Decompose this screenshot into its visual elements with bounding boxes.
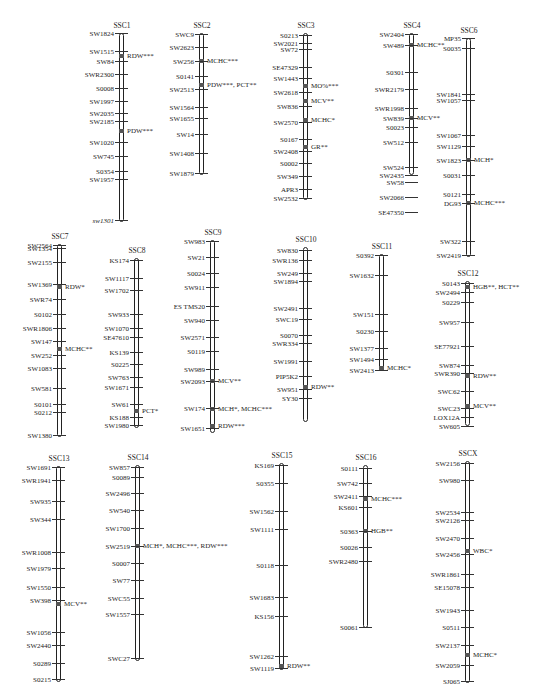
marker-tick — [461, 610, 474, 611]
marker-tick — [131, 510, 144, 511]
marker-label: S0026 — [340, 544, 358, 551]
marker-tick — [461, 520, 474, 521]
marker-tick — [375, 314, 388, 315]
qtl-label: RDW** — [287, 663, 310, 670]
chromosome-bar — [465, 461, 470, 683]
marker-label: SWR2480 — [329, 558, 358, 565]
marker-tick — [195, 173, 208, 174]
marker-tick — [405, 142, 418, 143]
marker-label: SW2137 — [436, 642, 461, 649]
marker-tick — [299, 106, 312, 107]
marker-tick — [53, 404, 66, 405]
marker-tick — [115, 113, 128, 114]
qtl-label: RDW** — [473, 373, 496, 380]
marker-tick — [52, 568, 65, 569]
marker-tick — [359, 468, 372, 469]
chromosome-title: SSC13 — [49, 454, 70, 463]
marker-label: SWC9 — [175, 31, 194, 38]
qtl-label: GR** — [311, 144, 328, 151]
marker-tick — [462, 135, 475, 136]
chromosome-title: SSC8 — [128, 246, 145, 255]
marker-label: SW2185 — [90, 118, 115, 125]
marker-tick — [299, 260, 312, 261]
marker-tick — [299, 308, 312, 309]
qtl-label: HGB** — [371, 528, 393, 535]
marker-tick — [52, 480, 65, 481]
marker-tick — [462, 175, 475, 176]
marker-label: SWR1806 — [23, 325, 52, 332]
marker-label: SW2623 — [170, 44, 195, 51]
marker-label: KS601 — [339, 504, 358, 511]
marker-label: SW322 — [440, 238, 461, 245]
marker-label: SE77921 — [434, 343, 460, 350]
marker-label: SW1408 — [170, 150, 195, 157]
marker-tick — [52, 501, 65, 502]
marker-label: SW1691 — [27, 464, 52, 471]
marker-tick — [299, 92, 312, 93]
marker-label: SW540 — [109, 507, 130, 514]
marker-tick — [52, 645, 65, 646]
marker-label: SWR2300 — [85, 71, 114, 78]
marker-label: SW2513 — [170, 86, 195, 93]
marker-tick — [462, 255, 475, 256]
marker-label: PIP5K2 — [276, 373, 298, 380]
marker-label: SJ065 — [443, 678, 460, 685]
marker-tick — [405, 34, 418, 35]
marker-tick — [130, 337, 143, 338]
marker-tick — [299, 198, 312, 199]
marker-label: SW1369 — [28, 281, 53, 288]
marker-label: SWR390 — [434, 370, 460, 377]
marker-tick — [53, 262, 66, 263]
qtl-region — [119, 54, 124, 58]
marker-label: SWC55 — [108, 595, 130, 602]
marker-tick — [299, 389, 312, 390]
marker-tick — [130, 260, 143, 261]
qtl-label: PDW*** — [127, 128, 153, 135]
marker-label: SW1129 — [437, 143, 461, 150]
chromosome-map: SSC1RDW***PDW***SW1824SW1515SW84SWR2300S… — [0, 0, 534, 699]
marker-label: S0511 — [442, 624, 460, 631]
marker-label: S0215 — [33, 676, 51, 683]
chromosome-bar — [56, 466, 61, 682]
marker-tick — [275, 656, 288, 657]
marker-label: S0089 — [112, 474, 130, 481]
marker-tick — [461, 463, 474, 464]
marker-label: SW1262 — [250, 653, 275, 660]
marker-tick — [461, 554, 474, 555]
marker-label: SW1056 — [27, 629, 52, 636]
marker-label: SW1632 — [350, 272, 375, 279]
marker-tick — [461, 322, 474, 323]
marker-tick — [195, 34, 208, 35]
marker-label: SW2570 — [274, 119, 299, 126]
chromosome-title: SSC6 — [460, 26, 477, 35]
qtl-region — [465, 285, 470, 289]
marker-tick — [299, 67, 312, 68]
marker-label: SW1083 — [28, 365, 53, 372]
marker-label: SW2093 — [181, 378, 206, 385]
marker-label: S0070 — [280, 332, 298, 339]
marker-label: SWR136 — [272, 257, 298, 264]
marker-tick — [299, 281, 312, 282]
marker-label: SW1354 — [28, 245, 53, 252]
marker-tick — [130, 364, 143, 365]
marker-label: SW2408 — [274, 148, 299, 155]
marker-label: KS139 — [110, 349, 129, 356]
marker-tick — [206, 257, 219, 258]
marker-tick — [405, 45, 418, 46]
marker-label: SW980 — [439, 477, 460, 484]
marker-tick — [195, 61, 208, 62]
marker-label: SW77 — [113, 577, 131, 584]
marker-tick — [461, 480, 474, 481]
marker-label: SW252 — [31, 352, 52, 359]
qtl-region — [363, 497, 368, 501]
marker-tick — [461, 627, 474, 628]
marker-tick — [359, 531, 372, 532]
marker-label: SWR1861 — [431, 571, 460, 578]
marker-label: SW1117 — [105, 275, 129, 282]
marker-label: SWR334 — [272, 340, 298, 347]
marker-tick — [461, 538, 474, 539]
marker-tick — [195, 89, 208, 90]
marker-label: SE47610 — [103, 334, 129, 341]
marker-label: SW1111 — [250, 526, 274, 533]
marker-label: SW2534 — [436, 509, 461, 516]
